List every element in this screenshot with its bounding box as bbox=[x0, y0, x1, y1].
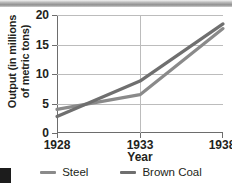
corner-artifact bbox=[0, 168, 11, 183]
y-tick-label-20: 20 bbox=[36, 8, 49, 22]
y-tick-label-15: 15 bbox=[36, 38, 49, 52]
cropped-title-band bbox=[0, 0, 232, 7]
legend-item-brown-coal: Brown Coal bbox=[120, 166, 201, 178]
legend-swatch-brown-coal bbox=[120, 171, 136, 174]
y-tick-label-5: 5 bbox=[42, 97, 49, 111]
legend-item-steel: Steel bbox=[40, 166, 88, 178]
y-axis-title-line-1: Output (in millions bbox=[6, 3, 19, 121]
y-axis-title: Output (in millions of metric tons) bbox=[6, 3, 31, 121]
chart-legend: Steel Brown Coal bbox=[16, 166, 226, 178]
series-lines bbox=[57, 15, 223, 133]
legend-label-brown-coal: Brown Coal bbox=[142, 166, 201, 178]
x-axis-title: Year bbox=[57, 150, 223, 164]
plot-area: 20 15 10 5 0 1928 1933 1938 bbox=[57, 15, 223, 133]
y-tick-label-10: 10 bbox=[36, 67, 49, 81]
legend-swatch-steel bbox=[40, 171, 56, 174]
series-line-brown-coal bbox=[57, 24, 223, 117]
y-axis-title-line-2: of metric tons) bbox=[18, 3, 31, 121]
legend-label-steel: Steel bbox=[62, 166, 88, 178]
